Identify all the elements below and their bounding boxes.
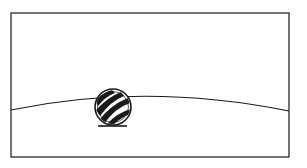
horizon-line [11,96,289,111]
striped-ball-icon [95,89,131,128]
illustration-canvas [0,0,307,168]
picture-frame [11,13,289,157]
